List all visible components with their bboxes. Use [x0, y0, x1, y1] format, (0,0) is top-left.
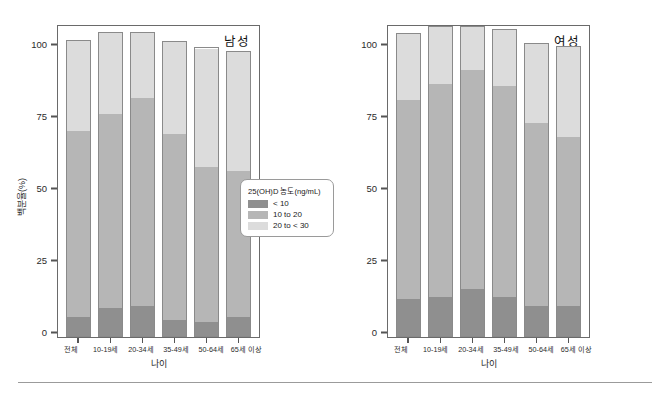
legend-male: 25(OH)D 농도(ng/mL) < 10 10 to 20 20 to < … — [240, 179, 334, 237]
x-label-male-5: 65세 이상 — [229, 344, 263, 354]
x-label-female-2: 20-34세 — [454, 344, 488, 354]
female-segment-5-2 — [557, 47, 580, 137]
male-segment-3-0 — [163, 320, 186, 336]
legend-title-male: 25(OH)D 농도(ng/mL) — [248, 185, 326, 196]
x-label-male-3: 35-49세 — [159, 344, 193, 354]
female-bar-4[interactable] — [524, 43, 549, 337]
x-axis-female: 전체 10-19세 20-34세 35-49세 50-64세 65세 이상 나이 — [387, 338, 590, 378]
panel-male: 백분율(%) 100 75 50 25 0 남성 — [0, 0, 335, 393]
female-segment-4-0 — [525, 306, 548, 336]
female-segment-1-1 — [429, 84, 452, 297]
female-segment-3-0 — [493, 297, 516, 336]
x-label-female-5: 65세 이상 — [559, 344, 593, 354]
female-bar-2[interactable] — [460, 26, 485, 337]
x-tick-labels-male: 전체 10-19세 20-34세 35-49세 50-64세 65세 이상 — [51, 344, 266, 354]
y-tick-50-female: 50 — [366, 183, 387, 194]
panel-female: 100 75 50 25 0 여성 — [335, 0, 670, 393]
y-axis-male: 백분율(%) 100 75 50 25 0 — [0, 0, 57, 393]
x-axis-male: 전체 10-19세 20-34세 35-49세 50-64세 65세 이상 나이 — [57, 338, 260, 378]
male-bar-3[interactable] — [162, 41, 187, 337]
y-axis-title-male: 백분율(%) — [15, 178, 28, 216]
male-bar-4[interactable] — [194, 47, 219, 337]
female-segment-5-1 — [557, 137, 580, 306]
female-bar-0[interactable] — [396, 33, 421, 337]
female-segment-2-1 — [461, 70, 484, 289]
y-tick-25-male: 25 — [36, 255, 57, 266]
male-segment-1-0 — [99, 308, 122, 336]
male-segment-3-2 — [163, 42, 186, 134]
male-segment-2-2 — [131, 33, 154, 98]
female-segment-2-0 — [461, 289, 484, 336]
x-label-female-4: 50-64세 — [524, 344, 558, 354]
male-bar-1[interactable] — [98, 32, 123, 337]
x-label-female-1: 10-19세 — [419, 344, 453, 354]
male-segment-0-2 — [67, 41, 90, 131]
male-segment-4-1 — [195, 167, 218, 322]
male-bar-0[interactable] — [66, 40, 91, 337]
female-segment-4-1 — [525, 123, 548, 306]
male-segment-3-1 — [163, 134, 186, 321]
male-segment-2-0 — [131, 306, 154, 336]
footer-divider — [18, 382, 652, 383]
male-segment-4-0 — [195, 322, 218, 336]
legend-label-lt10-male: < 10 — [273, 199, 289, 208]
x-label-female-3: 35-49세 — [489, 344, 523, 354]
x-label-male-2: 20-34세 — [124, 344, 158, 354]
x-axis-title-male: 나이 — [57, 357, 260, 370]
male-segment-0-0 — [67, 317, 90, 336]
y-tick-100-male: 100 — [31, 39, 57, 50]
y-tick-25-female: 25 — [366, 255, 387, 266]
legend-swatch-lt10-icon — [248, 200, 268, 208]
male-segment-4-2 — [195, 49, 218, 167]
male-segment-5-0 — [227, 317, 250, 336]
male-segment-1-2 — [99, 33, 122, 114]
legend-item-20to30-male: 20 to < 30 — [248, 221, 326, 230]
x-tick-labels-female: 전체 10-19세 20-34세 35-49세 50-64세 65세 이상 — [381, 344, 596, 354]
legend-swatch-10to20-icon — [248, 211, 268, 219]
female-segment-1-0 — [429, 297, 452, 336]
y-tick-75-female: 75 — [366, 111, 387, 122]
legend-swatch-20to30-icon — [248, 222, 268, 230]
female-segment-0-1 — [397, 100, 420, 299]
figure-container: 백분율(%) 100 75 50 25 0 남성 — [0, 0, 670, 393]
female-segment-3-1 — [493, 86, 516, 297]
female-segment-0-2 — [397, 34, 420, 99]
y-tick-75-male: 75 — [36, 111, 57, 122]
plot-area-male: 남성 — [57, 25, 260, 338]
female-bar-5[interactable] — [556, 46, 581, 337]
female-segment-5-0 — [557, 306, 580, 336]
plot-area-female: 여성 — [387, 25, 590, 338]
y-tick-50-male: 50 — [36, 183, 57, 194]
x-tick-marks-female — [387, 338, 590, 343]
female-segment-2-2 — [461, 27, 484, 71]
y-axis-female: 100 75 50 25 0 — [335, 0, 387, 393]
y-tick-0-female: 0 — [372, 327, 387, 338]
x-axis-title-female: 나이 — [387, 357, 590, 370]
male-segment-5-2 — [227, 52, 250, 172]
bar-group-female — [388, 26, 589, 337]
male-segment-0-1 — [67, 131, 90, 318]
female-segment-4-2 — [525, 44, 548, 123]
male-bar-2[interactable] — [130, 32, 155, 337]
y-tick-0-male: 0 — [42, 327, 57, 338]
male-segment-1-1 — [99, 114, 122, 308]
bar-group-male — [58, 26, 259, 337]
legend-item-lt10-male: < 10 — [248, 199, 326, 208]
female-segment-3-2 — [493, 30, 516, 86]
female-bar-3[interactable] — [492, 29, 517, 337]
legend-item-10to20-male: 10 to 20 — [248, 210, 326, 219]
female-bar-1[interactable] — [428, 26, 453, 337]
y-tick-100-female: 100 — [361, 39, 387, 50]
x-label-male-0: 전체 — [54, 344, 88, 354]
legend-label-20to30-male: 20 to < 30 — [273, 221, 309, 230]
female-segment-0-0 — [397, 299, 420, 336]
x-label-female-0: 전체 — [384, 344, 418, 354]
legend-label-10to20-male: 10 to 20 — [273, 210, 302, 219]
female-segment-1-2 — [429, 27, 452, 85]
male-segment-2-1 — [131, 98, 154, 306]
x-label-male-1: 10-19세 — [89, 344, 123, 354]
x-label-male-4: 50-64세 — [194, 344, 228, 354]
x-tick-marks-male — [57, 338, 260, 343]
